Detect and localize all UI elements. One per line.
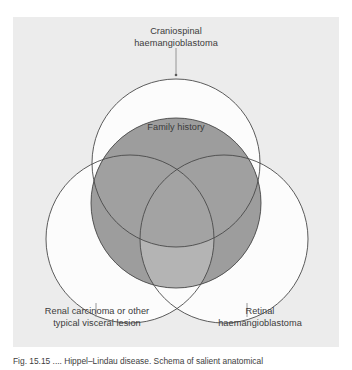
label-craniospinal-haemangioblastoma: Craniospinal haemangioblastoma bbox=[96, 26, 256, 49]
venn-diagram bbox=[13, 17, 339, 347]
label-family-history: Family history bbox=[116, 122, 236, 134]
figure-caption: Fig. 15.15 .... Hippel–Lindau disease. S… bbox=[13, 356, 343, 370]
label-retinal-haemangioblastoma: Retinal haemangioblastoma bbox=[182, 306, 338, 329]
leader-dot-top bbox=[175, 74, 178, 77]
figure-container: Craniospinal haemangioblastoma Family hi… bbox=[0, 0, 352, 370]
label-renal-carcinoma: Renal carcinoma or other typical viscera… bbox=[14, 306, 180, 329]
